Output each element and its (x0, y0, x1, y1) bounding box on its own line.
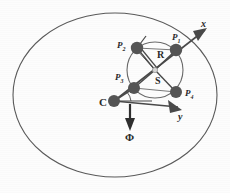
label-p4: P4 (185, 89, 194, 100)
diagram-canvas (0, 0, 230, 193)
chord-p3-p4 (134, 88, 176, 92)
phi-arrowhead (125, 118, 135, 131)
figure-container: P2 P1 P3 P4 R S C x y Φ (0, 0, 230, 193)
label-p2: P2 (117, 41, 126, 52)
label-p1: P1 (172, 33, 181, 44)
label-c: C (99, 97, 107, 108)
angle-arc-at-c (127, 92, 131, 101)
node-p1 (170, 44, 182, 56)
label-y-axis: y (178, 112, 182, 122)
label-phi: Φ (125, 132, 134, 143)
node-p2 (131, 42, 143, 54)
node-p4 (170, 86, 182, 98)
node-c (108, 95, 120, 107)
label-p3: P3 (115, 73, 124, 84)
node-p3 (128, 82, 140, 94)
inner-circle-center-hub (152, 67, 157, 72)
label-r: R (157, 50, 164, 60)
label-s: S (155, 76, 161, 86)
label-x-axis: x (201, 19, 206, 29)
x-axis-arrowhead (193, 28, 207, 41)
